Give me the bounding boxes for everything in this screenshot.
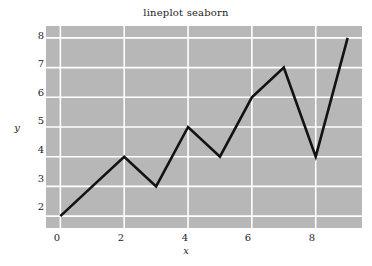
figure: lineplot seaborn 8 7 6 5 4 3 2 0 2 4 6 8…	[0, 0, 372, 266]
y-axis-label: y	[10, 122, 24, 133]
y-tick-label-7: 7	[22, 58, 44, 69]
y-tick-label-3: 3	[22, 173, 44, 184]
x-axis-label: x	[0, 245, 372, 256]
chart-title: lineplot seaborn	[0, 7, 372, 18]
plot-area	[46, 26, 362, 228]
x-tick-label-6: 6	[236, 232, 260, 243]
y-tick-label-4: 4	[22, 144, 44, 155]
x-tick-label-8: 8	[300, 232, 324, 243]
y-tick-label-6: 6	[22, 87, 44, 98]
y-tick-label-2: 2	[22, 201, 44, 212]
y-tick-label-5: 5	[22, 115, 44, 126]
grid-lines	[46, 26, 362, 228]
x-tick-label-0: 0	[45, 232, 69, 243]
plot-svg	[46, 26, 362, 228]
y-tick-label-8: 8	[22, 30, 44, 41]
x-tick-label-2: 2	[109, 232, 133, 243]
x-tick-label-4: 4	[173, 232, 197, 243]
